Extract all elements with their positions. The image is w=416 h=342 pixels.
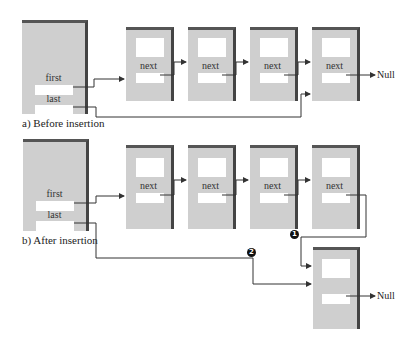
first-pointer-a — [73, 79, 124, 87]
diagram-canvas: first last a) Before insertion next next… — [0, 0, 416, 342]
last-pointer-a — [73, 94, 310, 117]
connector-lines — [0, 0, 416, 342]
first-pointer-b — [74, 196, 124, 203]
next-pointer-new — [301, 195, 366, 266]
last-pointer-b — [74, 223, 311, 284]
